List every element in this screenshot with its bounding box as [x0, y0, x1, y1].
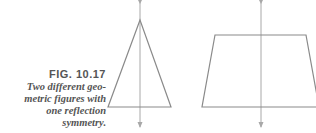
axis-arrowhead-bottom-icon: [259, 122, 264, 128]
axis-arrowhead-bottom-icon: [138, 122, 143, 128]
geometry-figures: [0, 0, 316, 133]
figure-page: FIG. 10.17 Two different geo- metric fig…: [0, 0, 316, 133]
axis-arrowhead-top-icon: [138, 0, 142, 4]
axis-arrowhead-top-icon: [259, 0, 263, 4]
isosceles-trapezoid: [202, 35, 316, 107]
triangle-figure: [108, 0, 171, 128]
trapezoid-figure: [202, 0, 316, 128]
